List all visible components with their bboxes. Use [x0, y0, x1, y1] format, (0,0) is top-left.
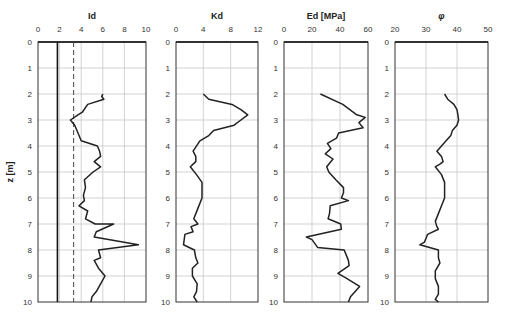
y-tick-label: 10: [269, 298, 278, 307]
panel-title: Kd: [211, 11, 223, 21]
x-tick-label: 40: [453, 25, 462, 34]
y-tick-label: 8: [274, 246, 279, 255]
y-tick-label: 4: [274, 142, 279, 151]
y-tick-label: 7: [274, 220, 279, 229]
x-tick-label: 0: [282, 25, 287, 34]
x-tick-label: 8: [228, 25, 233, 34]
y-tick-label: 2: [166, 90, 171, 99]
y-tick-label: 3: [166, 116, 171, 125]
dmt-profile-chart: 0246810Id01234567891004812Kd012345678910…: [0, 0, 507, 318]
x-tick-label: 4: [79, 25, 84, 34]
y-tick-label: 5: [166, 168, 171, 177]
y-tick-label: 4: [385, 142, 390, 151]
y-tick-label: 9: [385, 272, 390, 281]
x-tick-label: 30: [422, 25, 431, 34]
x-tick-label: 10: [142, 25, 151, 34]
panel-title: Ed [MPa]: [307, 11, 346, 21]
panel-title: Id: [88, 11, 96, 21]
y-tick-label: 0: [28, 38, 33, 47]
panel-kd: 04812Kd012345678910: [161, 11, 263, 307]
x-tick-label: 8: [122, 25, 127, 34]
y-tick-label: 2: [274, 90, 279, 99]
y-tick-label: 8: [385, 246, 390, 255]
y-tick-label: 8: [166, 246, 171, 255]
y-tick-label: 6: [28, 194, 33, 203]
y-tick-label: 2: [385, 90, 390, 99]
y-tick-label: 9: [274, 272, 279, 281]
y-tick-label: 1: [274, 64, 279, 73]
panel-phi: 20304050φ012345678910: [380, 11, 493, 307]
y-tick-label: 8: [28, 246, 33, 255]
x-tick-label: 2: [57, 25, 62, 34]
y-tick-label: 3: [274, 116, 279, 125]
y-tick-label: 3: [385, 116, 390, 125]
y-tick-label: 10: [161, 298, 170, 307]
x-tick-label: 6: [101, 25, 106, 34]
x-tick-label: 40: [336, 25, 345, 34]
x-tick-label: 4: [201, 25, 206, 34]
y-tick-label: 7: [166, 220, 171, 229]
y-tick-label: 1: [166, 64, 171, 73]
y-tick-label: 10: [380, 298, 389, 307]
y-tick-label: 0: [274, 38, 279, 47]
y-tick-label: 7: [28, 220, 33, 229]
y-tick-label: 1: [28, 64, 33, 73]
y-tick-label: 6: [385, 194, 390, 203]
panel-title: φ: [438, 11, 445, 21]
x-tick-label: 60: [364, 25, 373, 34]
y-tick-label: 5: [385, 168, 390, 177]
x-tick-label: 20: [308, 25, 317, 34]
y-tick-label: 4: [166, 142, 171, 151]
x-tick-label: 12: [254, 25, 263, 34]
x-tick-label: 0: [174, 25, 179, 34]
y-tick-label: 0: [166, 38, 171, 47]
y-tick-label: 5: [274, 168, 279, 177]
y-tick-label: 6: [274, 194, 279, 203]
y-tick-label: 1: [385, 64, 390, 73]
panel-id: 0246810Id012345678910: [23, 11, 151, 307]
y-tick-label: 0: [385, 38, 390, 47]
x-tick-label: 0: [36, 25, 41, 34]
y-tick-label: 4: [28, 142, 33, 151]
y-tick-label: 3: [28, 116, 33, 125]
panel-ed: 0204060Ed [MPa]012345678910: [269, 11, 373, 307]
x-tick-label: 20: [391, 25, 400, 34]
y-axis-label: z [m]: [5, 162, 15, 183]
y-tick-label: 9: [28, 272, 33, 281]
x-tick-label: 50: [484, 25, 493, 34]
y-tick-label: 2: [28, 90, 33, 99]
y-tick-label: 6: [166, 194, 171, 203]
y-tick-label: 5: [28, 168, 33, 177]
y-tick-label: 7: [385, 220, 390, 229]
y-tick-label: 10: [23, 298, 32, 307]
y-tick-label: 9: [166, 272, 171, 281]
